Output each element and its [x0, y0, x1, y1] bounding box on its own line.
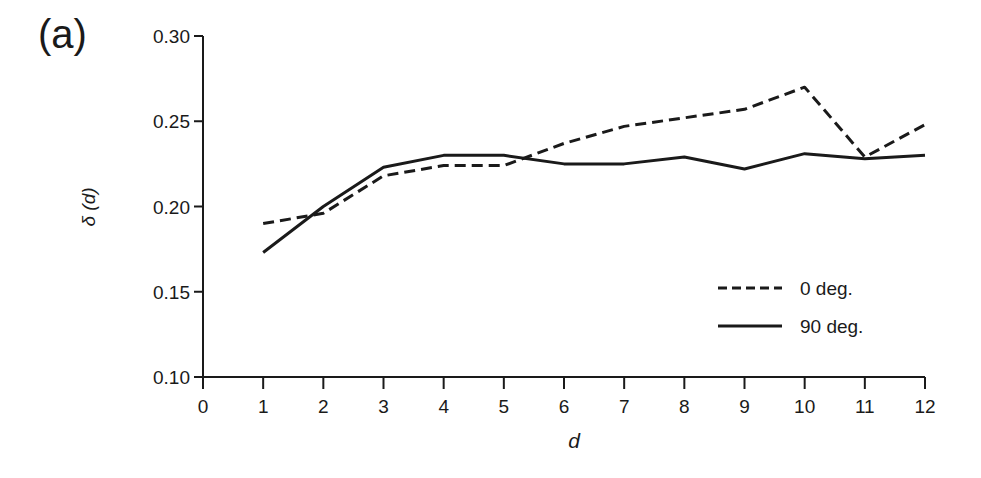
x-tick-label: 8	[679, 396, 690, 417]
x-tick-label: 4	[438, 396, 449, 417]
x-tick-label: 3	[378, 396, 389, 417]
y-tick-label: 0.25	[153, 111, 190, 132]
legend-label: 90 deg.	[800, 316, 863, 337]
x-tick-label: 0	[198, 396, 209, 417]
y-tick-label: 0.10	[153, 367, 190, 388]
x-tick-label: 7	[619, 396, 630, 417]
x-tick-label: 6	[559, 396, 570, 417]
line-chart: 0.100.150.200.250.300123456789101112 0 d…	[0, 0, 981, 478]
y-tick-label: 0.30	[153, 26, 190, 47]
x-tick-label: 1	[258, 396, 269, 417]
series-lines	[263, 87, 925, 252]
x-tick-label: 2	[318, 396, 329, 417]
y-axis-title: δ (d)	[78, 187, 99, 226]
series-line-90-deg	[263, 154, 925, 253]
x-tick-label: 10	[794, 396, 815, 417]
x-tick-label: 12	[914, 396, 935, 417]
y-tick-label: 0.20	[153, 197, 190, 218]
x-tick-label: 11	[855, 396, 875, 417]
x-tick-label: 5	[499, 396, 510, 417]
y-tick-label: 0.15	[153, 282, 190, 303]
legend: 0 deg.90 deg.	[718, 278, 863, 337]
legend-label: 0 deg.	[800, 278, 853, 299]
x-tick-label: 9	[739, 396, 750, 417]
x-axis-title: d	[568, 429, 581, 452]
